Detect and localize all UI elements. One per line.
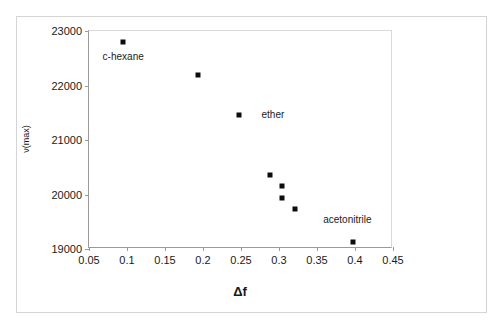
y-tick-mark xyxy=(85,31,89,32)
x-tick-mark xyxy=(241,247,242,251)
x-tick-mark xyxy=(203,247,204,251)
y-tick-mark xyxy=(85,86,89,87)
data-point xyxy=(237,112,242,117)
x-tick-mark xyxy=(355,247,356,251)
x-tick-label: 0.35 xyxy=(306,254,327,266)
chart-figure: 2300022000210002000019000 0.050.10.150.2… xyxy=(0,0,504,332)
x-tick-mark xyxy=(165,247,166,251)
x-tick-label: 0.2 xyxy=(195,254,210,266)
x-tick-label: 0.4 xyxy=(347,254,362,266)
data-point xyxy=(280,196,285,201)
x-tick-mark xyxy=(317,247,318,251)
x-tick-mark xyxy=(393,247,394,251)
data-point xyxy=(267,173,272,178)
x-tick-mark xyxy=(127,247,128,251)
y-axis-title: ν(max) xyxy=(21,125,31,153)
x-tick-label: 0.25 xyxy=(230,254,251,266)
y-tick-label: 20000 xyxy=(51,189,82,201)
plot-area: 2300022000210002000019000 0.050.10.150.2… xyxy=(88,30,392,248)
data-point xyxy=(121,39,126,44)
data-point xyxy=(292,207,297,212)
x-tick-label: 0.3 xyxy=(271,254,286,266)
point-annotation: acetonitrile xyxy=(323,215,371,225)
point-annotation: c-hexane xyxy=(103,52,144,62)
x-tick-label: 0.45 xyxy=(382,254,403,266)
x-tick-mark xyxy=(279,247,280,251)
y-tick-label: 21000 xyxy=(51,134,82,146)
y-tick-mark xyxy=(85,195,89,196)
y-tick-label: 22000 xyxy=(51,80,82,92)
data-point xyxy=(350,239,355,244)
point-annotation: ether xyxy=(262,110,285,120)
x-axis-title: Δf xyxy=(233,284,247,299)
x-tick-label: 0.15 xyxy=(154,254,175,266)
data-point xyxy=(280,184,285,189)
y-tick-mark xyxy=(85,140,89,141)
x-tick-label: 0.1 xyxy=(119,254,134,266)
x-tick-label: 0.05 xyxy=(78,254,99,266)
data-point xyxy=(195,73,200,78)
y-tick-label: 23000 xyxy=(51,25,82,37)
x-tick-mark xyxy=(89,247,90,251)
